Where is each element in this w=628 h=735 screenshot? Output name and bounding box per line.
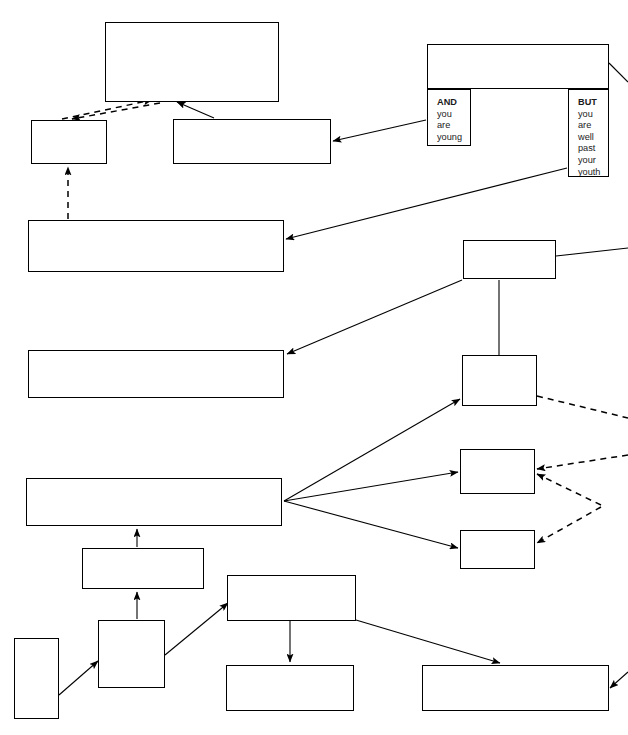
node-open-tournaments[interactable] bbox=[173, 119, 331, 164]
node-label: AND you are young bbox=[437, 97, 462, 143]
node-by-then[interactable] bbox=[105, 22, 279, 102]
edge-and-young-to-tournaments bbox=[333, 120, 426, 141]
node-but-you-are-well-past-your-youth[interactable]: BUT you are well past your youth bbox=[568, 89, 609, 177]
edge-tournaments-to-by-then bbox=[177, 102, 214, 118]
node-and-you-are-young[interactable]: AND you are young bbox=[427, 89, 471, 146]
edge-but-past-youth-to-continue bbox=[286, 168, 567, 239]
node-in-parks[interactable] bbox=[460, 530, 535, 569]
edge-first-attempts-to-at-a-club bbox=[284, 472, 458, 501]
node-at-a-club[interactable] bbox=[460, 449, 535, 494]
node-you-are-under-18[interactable] bbox=[227, 575, 356, 621]
edge-offpage-to-at-a-club-upper bbox=[537, 455, 628, 469]
node-decide-to-join-club[interactable] bbox=[462, 355, 537, 406]
edge-wish-to-play-to-under-18 bbox=[165, 603, 228, 655]
edge-under-18-to-initial-experience bbox=[356, 620, 500, 663]
node-you-wish-to-play-tennis[interactable] bbox=[98, 620, 165, 688]
edge-keep-studying-to-by-then bbox=[62, 100, 152, 119]
edge-get-better-right-stub bbox=[609, 63, 628, 82]
edge-two-routes-to-ambition bbox=[287, 280, 462, 354]
node-continue-enjoying[interactable] bbox=[28, 220, 284, 272]
node-you-get-better[interactable] bbox=[427, 44, 609, 89]
edge-offpage-to-at-a-club-lower bbox=[537, 474, 601, 505]
node-you-are-an-adult[interactable] bbox=[82, 548, 204, 589]
edge-first-attempts-to-in-parks bbox=[284, 501, 458, 548]
node-start[interactable] bbox=[14, 638, 59, 719]
edge-first-attempts-to-join-club bbox=[284, 399, 460, 501]
node-but-keep-studying[interactable] bbox=[31, 120, 107, 164]
node-initial-experience[interactable] bbox=[422, 665, 609, 711]
node-first-attempts[interactable] bbox=[26, 478, 282, 526]
edge-start-to-wish-to-play bbox=[59, 661, 98, 695]
edge-initial-experience-out bbox=[610, 672, 628, 688]
node-ambition-fulfilled[interactable] bbox=[28, 350, 284, 398]
edge-by-then-to-keep-studying bbox=[72, 103, 160, 119]
node-label: BUT you are well past your youth bbox=[578, 97, 600, 177]
node-check-notices[interactable] bbox=[226, 665, 354, 711]
edge-join-club-dashed-out bbox=[537, 396, 628, 418]
node-take-one-of-two-routes[interactable] bbox=[463, 240, 556, 279]
edge-offpage-to-in-parks bbox=[537, 507, 601, 543]
flowchart-canvas: AND you are youngBUT you are well past y… bbox=[0, 0, 628, 735]
edge-two-routes-right-stub bbox=[556, 248, 628, 256]
